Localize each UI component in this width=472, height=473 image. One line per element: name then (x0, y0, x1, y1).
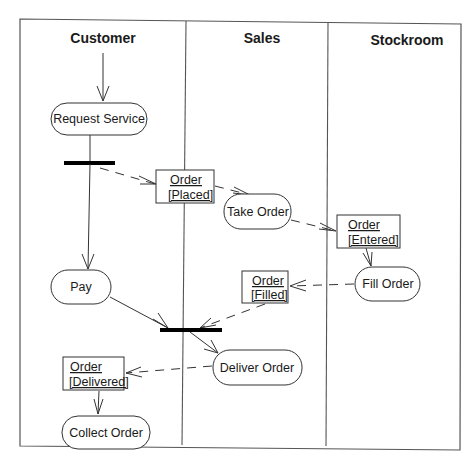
objflow-fork-to-order-placed (100, 168, 155, 184)
lane-title-stockroom: Stockroom (370, 32, 443, 48)
object-order-delivered-state: [Delivered] (69, 375, 129, 389)
objflow-order-filled-to-join (200, 304, 265, 328)
activity-pay-label: Pay (70, 280, 92, 294)
objflow-take-order-to-order-entered (291, 220, 336, 231)
object-order-filled-state: [Filled] (251, 288, 288, 302)
activity-take-order-label: Take Order (227, 205, 289, 219)
activity-request-service-label: Request Service (53, 112, 145, 126)
object-order-placed-name: Order (170, 173, 202, 187)
lane-divider-customer-sales (182, 21, 186, 445)
flow-fork-to-pay (88, 164, 90, 269)
object-order-placed-state: [Placed] (168, 188, 213, 202)
activity-deliver-order-label: Deliver Order (220, 361, 294, 375)
object-order-entered-name: Order (348, 218, 380, 232)
arrowhead-icon (153, 313, 168, 328)
activity-diagram: Customer Sales Stockroom Request Service… (0, 0, 472, 473)
objflow-deliver-order-to-order-delivered (126, 366, 212, 373)
object-order-delivered-name: Order (70, 360, 102, 374)
activity-fill-order-label: Fill Order (362, 277, 413, 291)
lane-title-sales: Sales (244, 30, 281, 46)
arrowhead-icon (139, 176, 156, 184)
activity-collect-order-label: Collect Order (69, 426, 143, 440)
lane-divider-sales-stockroom (326, 23, 328, 446)
flow-join-to-deliver-order (190, 332, 218, 353)
lane-title-customer: Customer (70, 30, 136, 46)
objflow-order-entered-to-fill-order (366, 248, 371, 266)
object-order-filled-name: Order (252, 274, 284, 288)
object-order-entered-state: [Entered] (348, 233, 399, 247)
objflow-fill-order-to-order-filled (290, 284, 354, 286)
